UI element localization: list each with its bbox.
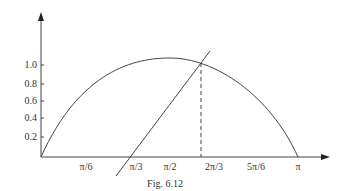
x-tick-label: π/3 <box>130 161 143 172</box>
x-tick-label: π <box>295 161 300 172</box>
y-tick-label: 0.6 <box>25 95 38 106</box>
x-tick-label: π/6 <box>80 161 93 172</box>
y-tick-label: 0.8 <box>25 78 38 89</box>
y-axis-arrow-icon <box>38 12 44 21</box>
x-tick-label: π/2 <box>164 161 177 172</box>
y-tick-label: 0.4 <box>25 112 38 123</box>
x-tick-label: 2π/3 <box>205 161 223 172</box>
y-tick-label: 0.2 <box>25 131 38 142</box>
figure: 0.2 0.4 0.6 0.8 1.0 π/6 π/3 π/2 2π/3 5π/… <box>0 0 339 191</box>
x-axis-arrow-icon <box>321 154 330 160</box>
figure-caption: Fig. 6.12 <box>147 178 183 189</box>
x-tick-label: 5π/6 <box>247 161 265 172</box>
y-tick-label: 1.0 <box>25 59 38 70</box>
curve <box>41 58 298 157</box>
